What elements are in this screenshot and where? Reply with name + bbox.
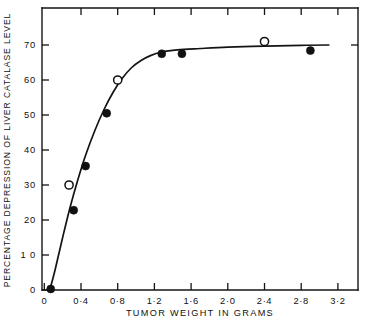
- y-tick-label: 0: [10, 284, 36, 295]
- data-point-filled: [158, 50, 166, 58]
- data-point-open: [65, 181, 73, 189]
- y-tick-label: 60: [10, 74, 36, 85]
- x-tick-label: 0·8: [101, 295, 135, 306]
- data-point-filled: [103, 109, 111, 117]
- data-point-open: [260, 37, 268, 45]
- plot-canvas: [0, 0, 367, 327]
- x-tick-label: 1·6: [174, 295, 208, 306]
- open-circle-markers: [65, 37, 269, 189]
- x-tick-label: 2·0: [211, 295, 245, 306]
- x-axis-title: TUMOR WEIGHT IN GRAMS: [42, 308, 358, 318]
- x-tick-label: 2·4: [248, 295, 282, 306]
- x-tick-label: 3·2: [321, 295, 355, 306]
- data-point-open: [114, 76, 122, 84]
- x-tick-label: 1·2: [137, 295, 171, 306]
- x-tick-label: 0·4: [64, 295, 98, 306]
- y-tick-label: 1 0: [10, 249, 36, 260]
- y-tick-label: 20: [10, 214, 36, 225]
- y-tick-label: 30: [10, 179, 36, 190]
- data-point-filled: [178, 50, 186, 58]
- data-point-filled: [306, 47, 314, 55]
- data-point-filled: [82, 162, 90, 170]
- chart-figure: PERCENTAGE DEPRESSION OF LIVER CATALASE …: [0, 0, 367, 327]
- x-tick-label: 0: [27, 295, 61, 306]
- fit-curve-path: [50, 45, 329, 290]
- fit-curve: [50, 45, 329, 290]
- x-tick-label: 2·8: [284, 295, 318, 306]
- data-point-filled: [47, 285, 55, 293]
- y-tick-label: 50: [10, 109, 36, 120]
- filled-circle-markers: [47, 47, 315, 293]
- y-tick-label: 40: [10, 144, 36, 155]
- data-point-filled: [70, 206, 78, 214]
- y-tick-label: 70: [10, 39, 36, 50]
